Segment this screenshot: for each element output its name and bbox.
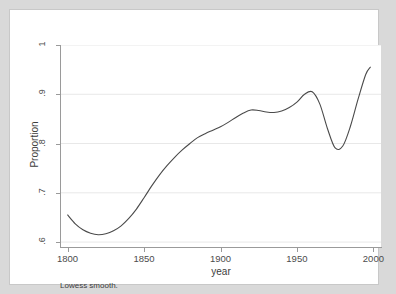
x-tick-mark (221, 248, 222, 252)
x-tick-mark (297, 248, 298, 252)
y-tick-mark (56, 242, 60, 243)
y-tick-label: .7 (37, 181, 47, 203)
x-tick-mark (144, 248, 145, 252)
x-tick-label: 1900 (201, 253, 241, 264)
y-axis-line (60, 45, 61, 248)
chart-note: Lowess smooth. (60, 281, 118, 290)
x-tick-label: 1950 (277, 253, 317, 264)
y-tick-mark (56, 94, 60, 95)
x-tick-label: 1800 (48, 253, 88, 264)
chart-figure: .6.7.8.9118001850190019502000 Proportion… (0, 0, 396, 294)
y-axis-title: Proportion (29, 110, 40, 180)
y-tick-mark (56, 45, 60, 46)
x-tick-mark (373, 248, 374, 252)
lowess-curve (68, 67, 371, 235)
x-tick-mark (68, 248, 69, 252)
y-tick-label: .6 (37, 230, 47, 252)
y-tick-label: .9 (37, 82, 47, 104)
y-tick-mark (56, 144, 60, 145)
x-axis-title: year (60, 266, 382, 277)
plot-area (60, 45, 381, 247)
x-tick-label: 2000 (353, 253, 393, 264)
y-tick-mark (56, 193, 60, 194)
lowess-plot-svg (60, 45, 381, 247)
graph-region: .6.7.8.9118001850190019502000 Proportion… (9, 9, 379, 285)
y-tick-label: 1 (37, 33, 47, 55)
x-tick-label: 1850 (124, 253, 164, 264)
